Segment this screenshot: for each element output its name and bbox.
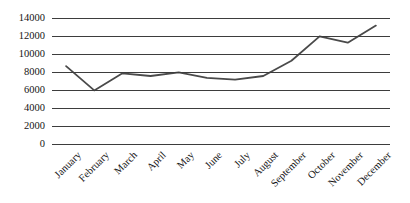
gridline <box>52 54 390 55</box>
y-axis-tick-label: 10000 <box>19 48 45 59</box>
y-axis-tick-label: 0 <box>40 138 45 149</box>
y-axis-tick-label: 2000 <box>24 120 45 131</box>
y-axis-tick-label: 6000 <box>24 84 45 95</box>
y-axis: 02000400060008000100001200014000 <box>0 0 48 203</box>
gridline <box>52 72 390 73</box>
gridline <box>52 108 390 109</box>
gridline <box>52 144 390 145</box>
gridline <box>52 90 390 91</box>
gridline <box>52 126 390 127</box>
y-axis-tick-label: 12000 <box>19 30 45 41</box>
y-axis-tick-label: 4000 <box>24 102 45 113</box>
y-axis-tick-label: 14000 <box>19 12 45 23</box>
line-chart: 02000400060008000100001200014000 January… <box>0 0 410 203</box>
gridline <box>52 36 390 37</box>
y-axis-tick-label: 8000 <box>24 66 45 77</box>
gridline <box>52 18 390 19</box>
